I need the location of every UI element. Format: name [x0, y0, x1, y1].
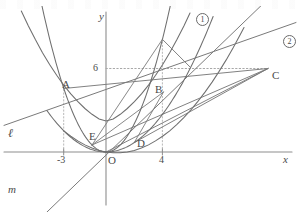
segment-E-B-path [92, 39, 162, 145]
origin-label: O [108, 155, 116, 166]
circled-two: 2 [283, 35, 296, 48]
circled-one: 1 [196, 13, 209, 26]
point-label-C: C [272, 70, 279, 81]
y-tick-label-6: 6 [93, 63, 98, 73]
curve-2-label: 2 [283, 31, 296, 48]
point-label-B: B [155, 84, 162, 95]
point-label-D: D [137, 138, 145, 149]
point-label-A: A [62, 79, 70, 90]
curve-1-path [13, 0, 190, 152]
x-axis-label: x [283, 154, 288, 165]
line-l-label: ℓ [8, 127, 13, 139]
x-tick-label-4: 4 [159, 155, 164, 165]
math-figure: y x O -3 4 6 A B C D E ℓ m 1 2 [0, 0, 303, 212]
line-m-label: m [8, 184, 16, 195]
segment-B-C-path [162, 39, 190, 67]
segment-E-C [92, 69, 268, 146]
point-label-E: E [89, 131, 96, 142]
line-m [20, 0, 296, 212]
coordinate-plane-svg [0, 0, 303, 212]
curve-1-label: 1 [196, 9, 209, 26]
x-tick-label-neg3: -3 [57, 155, 65, 165]
y-axis-label: y [99, 11, 104, 22]
line-l [4, 23, 296, 126]
